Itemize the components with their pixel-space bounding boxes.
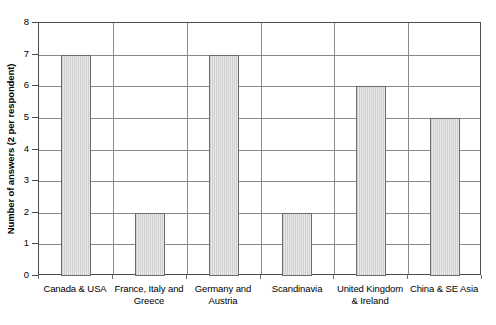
x-axis-tick [112,275,113,279]
y-axis-tick-label: 4 [18,144,29,154]
x-axis-label: France, Italy andGreece [108,283,190,307]
gridline [39,213,480,214]
x-axis-label-line: Germany and [182,283,264,295]
bar [209,55,239,276]
y-axis-tick-label: 0 [18,270,29,280]
y-axis-tick-label: 6 [18,80,29,90]
y-axis-label: Number of answers (2 per respondent) [2,22,18,275]
category-divider [187,23,188,274]
y-axis-tick-label: 8 [18,17,29,27]
x-axis-tick [333,275,334,279]
y-axis-tick-label: 2 [18,207,29,217]
x-axis-label: Scandinavia [256,283,338,295]
x-axis-label-line: Canada & USA [34,283,116,295]
bar [356,86,386,276]
x-axis-tick [38,275,39,279]
category-divider [113,23,114,274]
y-axis-tick-label: 1 [18,238,29,248]
y-axis-tick-label: 5 [18,112,29,122]
gridline [39,118,480,119]
x-axis-label: Germany andAustria [182,283,264,307]
x-axis-label-line: Scandinavia [256,283,338,295]
category-divider [334,23,335,274]
x-axis-label-line: Austria [182,295,264,307]
x-axis-tick [186,275,187,279]
gridline [39,181,480,182]
bar-chart-figure: Number of answers (2 per respondent) 012… [0,0,496,325]
plot-area [38,22,481,275]
x-axis-label-line: China & SE Asia [403,283,485,295]
x-axis-tick [260,275,261,279]
gridline [39,150,480,151]
chart-title [60,0,440,1]
x-axis-label-line: France, Italy and [108,283,190,295]
bar [135,213,165,276]
x-axis-label: China & SE Asia [403,283,485,295]
gridline [39,86,480,87]
bar [61,55,91,276]
bar [430,118,460,276]
x-axis-label-line: & Ireland [329,295,411,307]
category-divider [408,23,409,274]
x-axis-label: Canada & USA [34,283,116,295]
x-axis-label-line: Greece [108,295,190,307]
x-axis-tick [481,275,482,279]
category-divider [261,23,262,274]
gridline [39,55,480,56]
y-axis-tick-label: 7 [18,49,29,59]
gridline [39,244,480,245]
y-axis-label-text: Number of answers (2 per respondent) [5,63,16,234]
x-axis-label: United Kingdom& Ireland [329,283,411,307]
x-axis-tick [407,275,408,279]
y-axis-tick-label: 3 [18,175,29,185]
bar [282,213,312,276]
x-axis-label-line: United Kingdom [329,283,411,295]
